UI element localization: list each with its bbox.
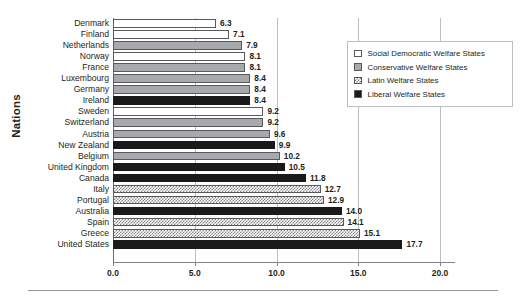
bar-value-label: 9.9: [279, 140, 291, 151]
legend-swatch-latin: [354, 77, 362, 85]
bar-value-label: 12.7: [325, 184, 341, 195]
bar-row: Portugal12.9: [0, 195, 521, 206]
legend-label: Social Democratic Welfare States: [368, 49, 485, 58]
bar-value-label: 8.1: [249, 62, 261, 73]
bar[interactable]: [113, 185, 321, 194]
legend-swatch-conservative: [354, 63, 362, 71]
bar[interactable]: [113, 96, 250, 105]
legend-item-social-democratic[interactable]: Social Democratic Welfare States: [354, 47, 506, 60]
category-label: Austria: [82, 129, 109, 140]
category-label: Switzerland: [65, 117, 109, 128]
x-axis-tick: [440, 262, 441, 266]
legend-label: Conservative Welfare States: [368, 63, 468, 72]
bar-value-label: 9.2: [267, 117, 279, 128]
category-label: Belgium: [78, 151, 109, 162]
category-label: Germany: [74, 84, 109, 95]
bar[interactable]: [113, 130, 270, 139]
x-axis-tick: [358, 262, 359, 266]
bar[interactable]: [113, 118, 263, 127]
category-label: United States: [57, 239, 109, 250]
bar[interactable]: [113, 107, 263, 116]
category-label: Luxembourg: [61, 73, 109, 84]
x-axis-tick-label: 15.0: [350, 268, 367, 278]
bar[interactable]: [113, 85, 250, 94]
legend-item-liberal[interactable]: Liberal Welfare States: [354, 88, 506, 101]
bar[interactable]: [113, 152, 280, 161]
category-label: Sweden: [78, 106, 109, 117]
bar-value-label: 14.0: [346, 206, 362, 217]
bar-value-label: 10.2: [284, 151, 300, 162]
bar-value-label: 6.3: [220, 18, 232, 29]
bar-row: Austria9.6: [0, 129, 521, 140]
legend-swatch-liberal: [354, 90, 362, 98]
bar[interactable]: [113, 207, 342, 216]
x-axis-tick-label: 0.0: [107, 268, 119, 278]
bar[interactable]: [113, 19, 216, 28]
legend-item-latin[interactable]: Latin Welfare States: [354, 74, 506, 87]
bar[interactable]: [113, 30, 229, 39]
bar[interactable]: [113, 163, 285, 172]
bar-value-label: 9.6: [274, 129, 286, 140]
bar-value-label: 10.5: [289, 162, 305, 173]
bar[interactable]: [113, 174, 306, 183]
legend-label: Latin Welfare States: [368, 76, 439, 85]
category-label: Finland: [81, 29, 109, 40]
bar-row: Greece15.1: [0, 228, 521, 239]
bar-chart: Nations 0.05.010.015.020.0 Denmark6.3Fin…: [0, 0, 521, 298]
bar-row: Finland7.1: [0, 29, 521, 40]
bar-value-label: 14.1: [348, 217, 364, 228]
category-label: New Zealand: [58, 140, 109, 151]
bar[interactable]: [113, 196, 324, 205]
bar-value-label: 8.4: [254, 73, 266, 84]
category-label: Spain: [87, 217, 109, 228]
bar-value-label: 7.1: [233, 29, 245, 40]
x-axis-tick-label: 5.0: [189, 268, 201, 278]
category-label: Greece: [81, 228, 109, 239]
bar-row: United States17.7: [0, 239, 521, 250]
bar-value-label: 8.4: [254, 95, 266, 106]
x-axis-tick-label: 10.0: [268, 268, 285, 278]
category-label: Norway: [80, 51, 109, 62]
bar[interactable]: [113, 52, 245, 61]
legend-label: Liberal Welfare States: [368, 90, 446, 99]
x-axis-tick: [277, 262, 278, 266]
legend-swatch-social-democratic: [354, 50, 362, 58]
page-rule-divider: [28, 290, 498, 291]
bar[interactable]: [113, 141, 275, 150]
category-label: Italy: [93, 184, 109, 195]
bar-row: Australia14.0: [0, 206, 521, 217]
bar-value-label: 15.1: [364, 228, 380, 239]
legend-item-conservative[interactable]: Conservative Welfare States: [354, 61, 506, 74]
x-axis-tick-label: 20.0: [432, 268, 449, 278]
x-axis-line: [113, 262, 455, 263]
bar-value-label: 12.9: [328, 195, 344, 206]
bar-value-label: 8.4: [254, 84, 266, 95]
bar-row: Denmark6.3: [0, 18, 521, 29]
bar-row: Canada11.8: [0, 173, 521, 184]
category-label: Denmark: [74, 18, 109, 29]
category-label: Ireland: [83, 95, 109, 106]
x-axis-tick: [195, 262, 196, 266]
category-label: United Kingdom: [48, 162, 109, 173]
category-label: Australia: [76, 206, 109, 217]
bar[interactable]: [113, 74, 250, 83]
legend: Social Democratic Welfare StatesConserva…: [347, 41, 513, 107]
bar-row: Sweden9.2: [0, 106, 521, 117]
bar-row: Spain14.1: [0, 217, 521, 228]
category-label: France: [82, 62, 109, 73]
bar[interactable]: [113, 63, 245, 72]
bar-value-label: 8.1: [249, 51, 261, 62]
bar[interactable]: [113, 41, 242, 50]
bar-value-label: 9.2: [267, 106, 279, 117]
bar-value-label: 11.8: [310, 173, 326, 184]
bar-row: Italy12.7: [0, 184, 521, 195]
bar-value-label: 7.9: [246, 40, 258, 51]
bar[interactable]: [113, 240, 402, 249]
bar-value-label: 17.7: [406, 239, 422, 250]
bar-row: United Kingdom10.5: [0, 162, 521, 173]
bar[interactable]: [113, 229, 360, 238]
category-label: Portugal: [77, 195, 109, 206]
bar[interactable]: [113, 218, 344, 227]
bar-row: Switzerland9.2: [0, 117, 521, 128]
bar-row: New Zealand9.9: [0, 140, 521, 151]
